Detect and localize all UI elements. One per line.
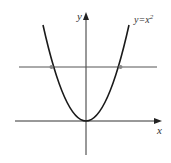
x-axis-label: x bbox=[156, 124, 162, 136]
curve-equation-exponent: 2 bbox=[150, 13, 154, 21]
y-axis-label: y bbox=[76, 10, 82, 22]
intersection-point-right bbox=[119, 65, 123, 69]
curve-equation-base: y=x bbox=[133, 14, 150, 25]
intersection-point-left bbox=[50, 65, 54, 69]
parabola-figure: y x y=x2 bbox=[0, 0, 171, 163]
y-axis-arrow-icon bbox=[83, 12, 89, 20]
chart-canvas: y x y=x2 bbox=[0, 0, 171, 163]
curve-equation-label: y=x2 bbox=[133, 13, 154, 25]
